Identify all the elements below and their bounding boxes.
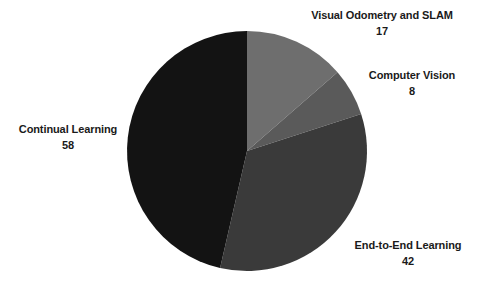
slice-label-end-to-end-learning: End-to-End Learning 42 — [338, 238, 478, 270]
slice-label-name: Visual Odometry and SLAM — [286, 8, 478, 24]
slice-label-name: Computer Vision — [346, 68, 478, 84]
slice-label-name: End-to-End Learning — [338, 238, 478, 254]
slice-label-computer-vision: Computer Vision 8 — [346, 68, 478, 100]
slice-label-visual-odometry-and-slam: Visual Odometry and SLAM 17 — [286, 8, 478, 40]
slice-label-value: 58 — [2, 138, 134, 154]
slice-label-value: 42 — [338, 254, 478, 270]
pie-chart: Visual Odometry and SLAM 17 Computer Vis… — [0, 0, 478, 297]
slice-label-value: 17 — [286, 24, 478, 40]
slice-label-continual-learning: Continual Learning 58 — [2, 122, 134, 154]
pie-slice-group — [127, 31, 367, 271]
slice-label-value: 8 — [346, 84, 478, 100]
slice-label-name: Continual Learning — [2, 122, 134, 138]
